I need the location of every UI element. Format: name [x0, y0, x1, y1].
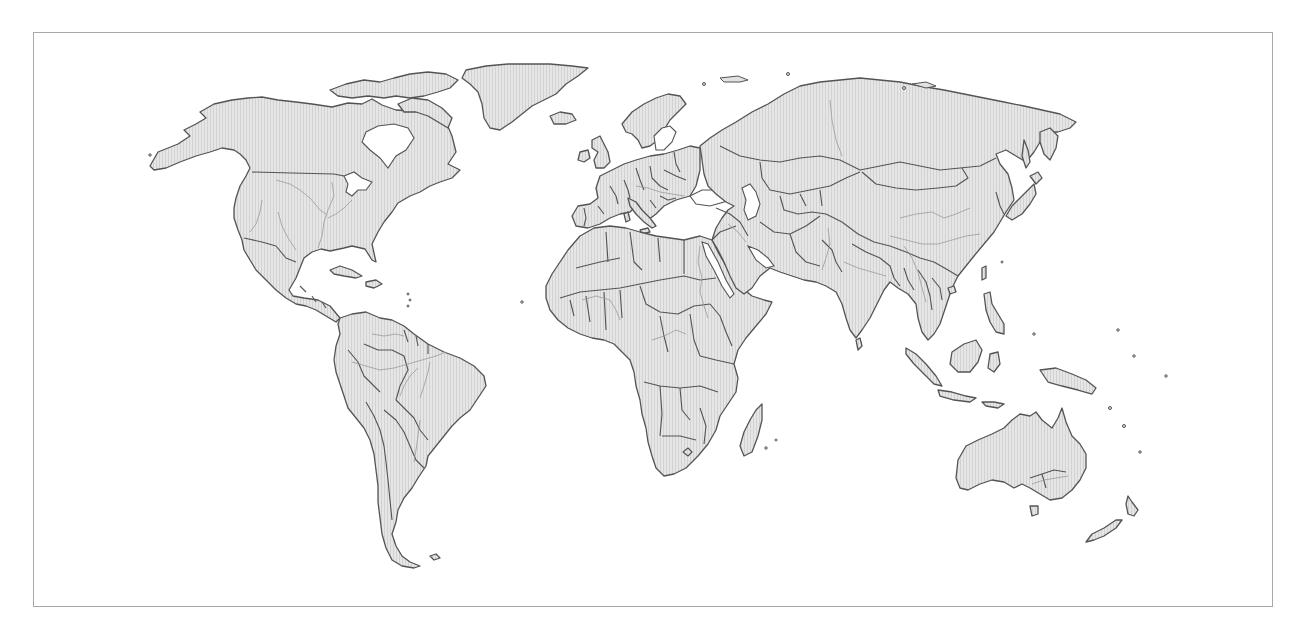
- ireland[interactable]: [578, 150, 590, 162]
- tasmania[interactable]: [1030, 506, 1038, 516]
- sulawesi[interactable]: [988, 352, 1000, 372]
- scandinavia[interactable]: [622, 94, 686, 148]
- europe-mainland[interactable]: [572, 146, 700, 228]
- hispaniola[interactable]: [366, 280, 382, 288]
- philippines[interactable]: [984, 292, 1004, 334]
- hokkaido[interactable]: [1030, 172, 1042, 184]
- cuba[interactable]: [330, 266, 362, 278]
- iceland[interactable]: [550, 112, 576, 124]
- taiwan[interactable]: [982, 266, 986, 280]
- great-britain[interactable]: [592, 136, 610, 168]
- south-america-mainland[interactable]: [334, 312, 486, 568]
- java[interactable]: [938, 390, 976, 402]
- borneo[interactable]: [950, 340, 982, 372]
- new-guinea[interactable]: [1040, 368, 1096, 394]
- sumatra[interactable]: [906, 348, 942, 386]
- lesser-sunda[interactable]: [982, 402, 1004, 408]
- hainan[interactable]: [948, 286, 956, 294]
- asia[interactable]: [700, 78, 1096, 408]
- falkland-islands[interactable]: [430, 554, 440, 560]
- oceania[interactable]: [956, 408, 1138, 542]
- north-america[interactable]: [150, 64, 588, 322]
- arctic-archipelago[interactable]: [330, 72, 458, 98]
- kamchatka[interactable]: [1040, 128, 1058, 160]
- new-zealand-north[interactable]: [1126, 496, 1138, 516]
- sardinia[interactable]: [624, 212, 630, 222]
- madagascar[interactable]: [740, 404, 762, 456]
- sri-lanka[interactable]: [856, 338, 862, 350]
- australia[interactable]: [956, 408, 1086, 500]
- north-america-mainland[interactable]: [150, 97, 460, 322]
- world-map[interactable]: [0, 0, 1303, 632]
- south-america[interactable]: [334, 312, 486, 568]
- new-zealand-south[interactable]: [1086, 520, 1122, 542]
